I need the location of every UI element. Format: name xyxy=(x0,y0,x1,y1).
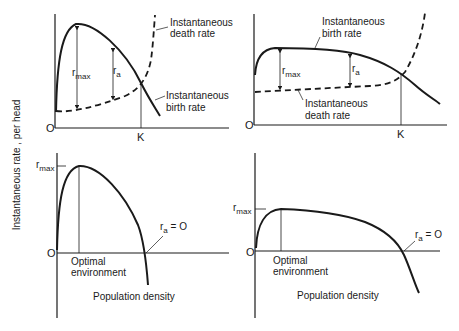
rmax-label: rmax xyxy=(233,202,251,216)
origin-label: O xyxy=(245,119,254,131)
origin-label: O xyxy=(46,122,55,134)
ra-zero-leader xyxy=(146,236,163,253)
k-label: K xyxy=(137,131,145,143)
birth-label-line1: Instantaneous xyxy=(166,90,229,101)
origin-label: O xyxy=(246,246,255,258)
death-label-leader xyxy=(298,90,303,100)
optimal-label-line2: environment xyxy=(273,266,328,277)
rmax-label: rmax xyxy=(36,159,54,173)
rmax-label: rmax xyxy=(282,65,300,79)
death-label-line2: death rate xyxy=(305,110,350,121)
optimal-label-line1: Optimal xyxy=(273,255,307,266)
death-label-line1: Instantaneous xyxy=(305,98,368,109)
panel-bottom-right: O rmax ra = O Optimal environment Popula… xyxy=(233,153,442,318)
death-rate-curve xyxy=(56,15,155,111)
panel-bottom-left: O rmax ra = O Optimal environment Popula… xyxy=(36,153,229,318)
x-axis-label: Population density xyxy=(93,291,175,302)
k-label: K xyxy=(397,128,405,140)
death-label-leader xyxy=(156,27,168,30)
ra-zero-label: ra = O xyxy=(415,229,442,243)
optimal-label-line2: environment xyxy=(71,267,126,278)
panel-top-right: O K rmax ra Instantaneous birth rate Ins… xyxy=(245,13,447,140)
x-axis-label: Population density xyxy=(297,290,379,301)
birth-label-line2: birth rate xyxy=(166,102,206,113)
ra-label: ra xyxy=(113,65,121,79)
optimal-label-line1: Optimal xyxy=(71,256,105,267)
ra-label: ra xyxy=(352,63,360,77)
ra-zero-leader xyxy=(404,241,415,251)
ra-zero-label: ra = O xyxy=(160,221,187,235)
panel-top-left: O K rmax ra Instantaneous death rate Ins… xyxy=(46,14,233,143)
death-label-line1: Instantaneous xyxy=(170,17,233,28)
death-label-line2: death rate xyxy=(170,28,215,39)
rmax-label: rmax xyxy=(72,67,90,81)
y-axis-label: Instantaneous rate , per head xyxy=(11,100,22,231)
figure: Instantaneous rate , per head O K rmax r… xyxy=(0,0,459,331)
birth-label-line2: birth rate xyxy=(322,28,362,39)
birth-label-line1: Instantaneous xyxy=(322,16,385,27)
origin-label: O xyxy=(47,247,56,259)
birth-label-leader xyxy=(315,37,320,48)
birth-label-leader xyxy=(155,96,165,100)
